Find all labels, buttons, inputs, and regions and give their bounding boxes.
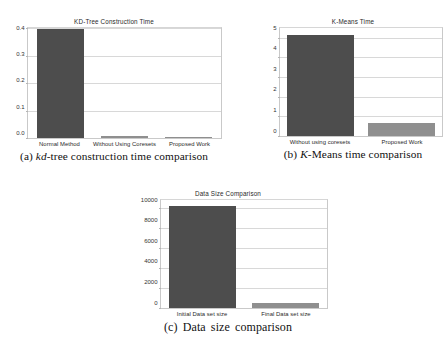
y-tick-label: 2 [273, 86, 276, 92]
caption-prefix: (b) [284, 148, 300, 160]
caption-b: (b) K-Means time comparison [263, 148, 443, 160]
bar-without-using-coresets [287, 35, 353, 136]
plot-area-a [27, 27, 222, 139]
x-axis-a: Normal Method Without Using Coresets Pro… [27, 141, 222, 147]
x-axis-c: Initial Data set size Final Data set siz… [160, 311, 328, 317]
x-label-without-using-coresets: Without using coresets [279, 139, 361, 145]
y-tick-label: 3 [273, 66, 276, 72]
bar-normal-method [37, 29, 84, 138]
bar-proposed-work [368, 123, 434, 136]
y-tick-label: 8000 [144, 217, 157, 223]
y-tick-label: 0.2 [16, 77, 24, 83]
caption-rest: -tree construction time comparison [47, 150, 208, 162]
x-label-normal-method: Normal Method [27, 141, 92, 147]
y-tick-label: 6000 [144, 238, 157, 244]
y-axis-c: 10000 8000 6000 4000 2000 0 [128, 199, 160, 309]
bar-group-b [280, 28, 442, 136]
y-tick-label: 4000 [144, 258, 157, 264]
plot-row-a: 0.4 0.3 0.2 0.1 0.0 [6, 27, 222, 139]
chart-title-b: K-Means Time [263, 18, 443, 25]
plot-row-b: 5 4 3 2 1 0 [263, 27, 443, 137]
y-tickmark [278, 136, 281, 137]
plot-row-c: 10000 8000 6000 4000 2000 0 [128, 199, 328, 309]
figure-panel-b: K-Means Time 5 4 3 2 1 0 [263, 18, 443, 160]
bar-slot [157, 28, 221, 138]
x-label-proposed-work: Proposed Work [157, 141, 222, 147]
y-axis-a: 0.4 0.3 0.2 0.1 0.0 [6, 27, 27, 139]
bar-slot [280, 28, 361, 136]
y-tick-label: 2000 [144, 279, 157, 285]
figure-panel-c: Data Size Comparison 10000 8000 6000 400… [128, 190, 328, 335]
x-label-without-using-coresets: Without Using Coresets [92, 141, 157, 147]
bar-final-data-set-size [252, 303, 318, 308]
caption-prefix: (a) [20, 150, 36, 162]
chart-title-a: KD-Tree Construction Time [6, 18, 222, 25]
chart-title-c: Data Size Comparison [128, 190, 328, 197]
caption-rest: Data size comparison [183, 320, 292, 334]
x-label-proposed-work: Proposed Work [361, 139, 443, 145]
caption-prefix: (c) [164, 320, 183, 334]
y-tickmark [26, 138, 29, 139]
caption-rest: -Means time comparison [308, 148, 423, 160]
x-label-initial-data-set-size: Initial Data set size [160, 311, 244, 317]
x-axis-b: Without using coresets Proposed Work [279, 139, 443, 145]
caption-c: (c) Data size comparison [128, 320, 328, 335]
bar-slot [244, 200, 327, 308]
plot-area-b [279, 27, 443, 137]
x-label-final-data-set-size: Final Data set size [244, 311, 328, 317]
y-tick-label: 10000 [141, 197, 158, 203]
bar-initial-data-set-size [169, 206, 235, 308]
y-tick-label: 0 [273, 128, 276, 134]
y-tickmark [159, 308, 162, 309]
caption-italic-term: kd [36, 150, 47, 162]
caption-a: (a) kd-tree construction time comparison [6, 150, 222, 162]
bar-proposed-work [165, 137, 212, 138]
caption-italic-term: K [300, 148, 308, 160]
y-tick-label: 1 [273, 107, 276, 113]
y-tick-label: 4 [273, 45, 276, 51]
y-tick-label: 0 [154, 300, 157, 306]
figure-panel-a: KD-Tree Construction Time 0.4 0.3 0.2 0.… [6, 18, 222, 162]
y-tick-label: 5 [273, 25, 276, 31]
bar-slot [92, 28, 156, 138]
y-axis-b: 5 4 3 2 1 0 [263, 27, 279, 137]
bar-without-using-coresets [101, 136, 148, 138]
y-tick-label: 0.4 [16, 25, 24, 31]
plot-area-c [160, 199, 328, 309]
bar-slot [161, 200, 244, 308]
y-tick-label: 0.1 [16, 104, 24, 110]
bar-group-a [28, 28, 221, 138]
bar-slot [28, 28, 92, 138]
y-tick-label: 0.0 [16, 130, 24, 136]
bar-slot [361, 28, 442, 136]
bar-group-c [161, 200, 327, 308]
y-tick-label: 0.3 [16, 51, 24, 57]
